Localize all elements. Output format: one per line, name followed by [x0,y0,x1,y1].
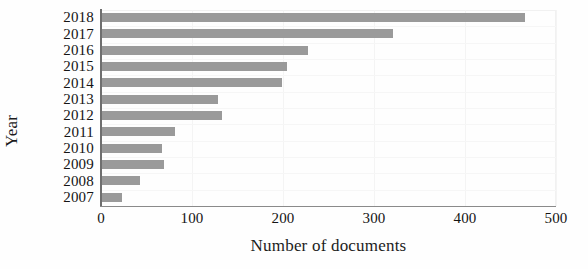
x-axis-line [100,206,556,207]
gridline-vertical [556,10,557,206]
x-tick-label-400: 400 [435,210,495,227]
y-tick-label-2016: 2016 [8,43,94,58]
plot-frame-top [101,10,556,11]
x-tick-label-200: 200 [253,210,313,227]
x-tick-label-100: 100 [162,210,222,227]
gridline-horizontal [101,75,556,76]
bar-2007 [101,193,122,202]
gridline-horizontal [101,108,556,109]
bar-2015 [101,62,287,71]
gridline-horizontal [101,92,556,93]
y-tick-label-2011: 2011 [8,125,94,140]
bar-2010 [101,144,162,153]
bar-2017 [101,29,393,38]
gridline-horizontal [101,157,556,158]
gridline-horizontal [101,141,556,142]
y-tick-label-2014: 2014 [8,76,94,91]
x-axis-title: Number of documents [101,236,556,256]
y-tick-label-2009: 2009 [8,157,94,172]
y-tick-label-2007: 2007 [8,190,94,205]
bar-2008 [101,176,140,185]
y-axis-line [100,9,102,207]
x-tick-label-0: 0 [71,210,131,227]
y-tick-label-2018: 2018 [8,10,94,25]
bar-2011 [101,127,175,136]
gridline-horizontal [101,26,556,27]
gridline-horizontal [101,173,556,174]
y-tick-label-2010: 2010 [8,141,94,156]
y-tick-label-2013: 2013 [8,92,94,107]
y-tick-label-2012: 2012 [8,108,94,123]
bar-chart: Year 20182017201620152014201320122011201… [0,0,588,269]
gridline-horizontal [101,43,556,44]
plot-area [101,10,556,206]
gridline-horizontal [101,59,556,60]
x-tick-label-300: 300 [344,210,404,227]
y-tick-label-2017: 2017 [8,27,94,42]
gridline-horizontal [101,190,556,191]
gridline-horizontal [101,124,556,125]
y-tick-label-2008: 2008 [8,174,94,189]
bar-2012 [101,111,222,120]
bar-2013 [101,95,218,104]
y-tick-label-2015: 2015 [8,59,94,74]
y-axis-tick-labels: 2018201720162015201420132012201120102009… [0,10,94,206]
bar-2018 [101,13,525,22]
bar-2009 [101,160,164,169]
bar-2014 [101,78,282,87]
bar-2016 [101,46,308,55]
x-tick-label-500: 500 [526,210,586,227]
